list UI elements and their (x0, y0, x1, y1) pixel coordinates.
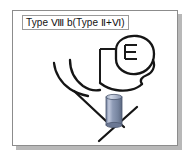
stent-cylinder-top (106, 94, 122, 99)
head-outline-path (116, 36, 154, 74)
figure-root: Type Ⅷ b(Type Ⅱ+Ⅵ) (0, 0, 194, 159)
stent-cylinder-body (106, 97, 122, 125)
anatomical-line-drawing (13, 11, 177, 145)
ear-marking-icon (125, 45, 137, 59)
bracket-line-path (100, 49, 116, 83)
jaw-return-path (100, 83, 142, 91)
vessel-line-path (74, 91, 106, 121)
type-label-box: Type Ⅷ b(Type Ⅱ+Ⅵ) (22, 15, 129, 30)
stent-cylinder-bottom (106, 122, 122, 127)
figure-frame: Type Ⅷ b(Type Ⅱ+Ⅵ) (12, 10, 178, 146)
type-label-text: Type Ⅷ b(Type Ⅱ+Ⅵ) (26, 17, 125, 28)
neck-inner-line-path (70, 60, 100, 90)
